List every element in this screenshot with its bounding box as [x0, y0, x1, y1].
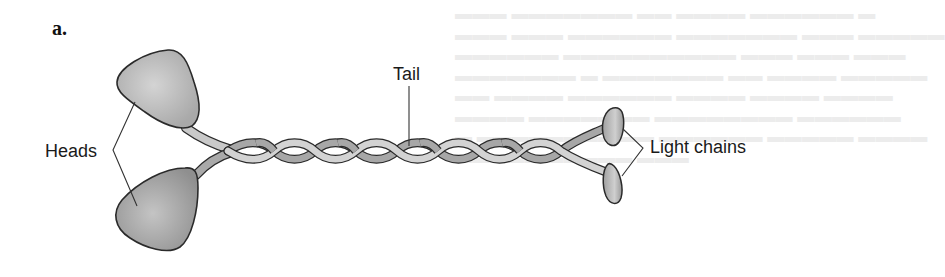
- light-chains-label: Light chains: [650, 137, 746, 158]
- head-lower: [116, 168, 198, 251]
- light-chain-upper: [602, 108, 623, 146]
- tail-coiled-coil: [228, 128, 606, 172]
- heads-label: Heads: [45, 141, 97, 162]
- neck-lower: [196, 152, 232, 175]
- panel-label: a.: [52, 17, 67, 40]
- tail-label: Tail: [393, 64, 420, 85]
- head-upper: [117, 50, 199, 128]
- light-chains-leader-lines: [622, 129, 643, 176]
- light-chain-lower: [603, 164, 622, 204]
- neck-upper: [186, 128, 232, 150]
